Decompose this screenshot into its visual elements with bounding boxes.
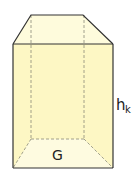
height-subscript: k [125, 104, 131, 115]
base-label: G [52, 147, 63, 163]
prism-diagram: G h k [0, 0, 135, 171]
